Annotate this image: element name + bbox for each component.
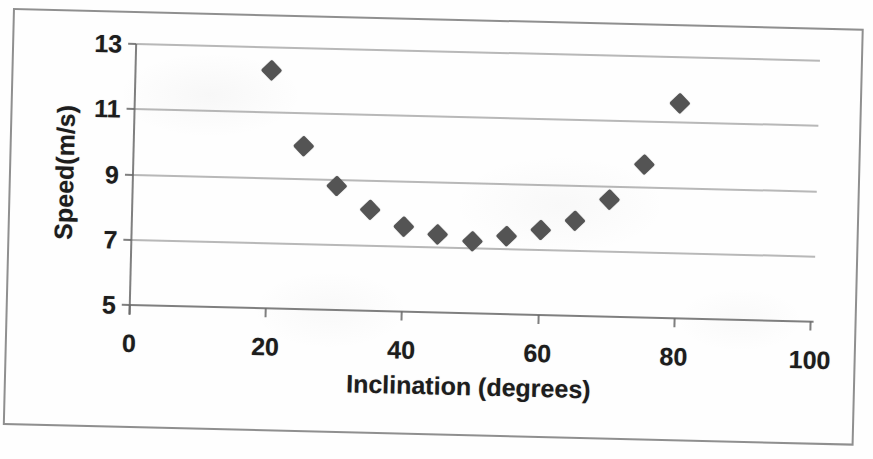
x-tick-label-40: 40: [356, 333, 447, 365]
x-axis-line: [130, 304, 814, 323]
x-tick-0: [129, 305, 131, 314]
x-tick-label-100: 100: [764, 343, 855, 375]
data-point-marker: [496, 225, 517, 246]
chart-frame: Speed(m/s) Inclination (degrees) 5791113…: [3, 8, 864, 446]
x-tick-20: [265, 308, 267, 317]
y-tick-label-9: 9: [49, 157, 120, 189]
data-point-marker: [360, 199, 381, 220]
data-point-marker: [599, 189, 620, 210]
data-point-marker: [427, 224, 448, 245]
y-tick-13: [128, 43, 136, 45]
y-axis-line: [129, 44, 138, 315]
y-tick-7: [123, 239, 131, 241]
x-tick-label-0: 0: [83, 327, 174, 359]
plot-area: [15, 10, 862, 31]
data-point-marker: [634, 154, 655, 175]
y-tick-label-13: 13: [52, 27, 123, 59]
data-point-marker: [530, 220, 551, 241]
data-point-marker: [564, 211, 585, 232]
x-tick-label-80: 80: [628, 340, 719, 372]
data-point-marker: [261, 60, 282, 81]
gridline-y-13: [136, 43, 820, 62]
data-point-marker: [293, 135, 314, 156]
y-tick-label-5: 5: [45, 288, 116, 320]
x-tick-80: [673, 318, 675, 327]
y-tick-label-7: 7: [47, 223, 118, 255]
x-tick-label-20: 20: [220, 330, 311, 362]
data-point-marker: [669, 92, 690, 113]
gridline-y-9: [133, 173, 817, 192]
data-point-marker: [394, 216, 415, 237]
x-tick-40: [401, 312, 403, 321]
gridline-y-11: [135, 108, 819, 127]
y-tick-9: [125, 173, 133, 175]
x-tick-label-60: 60: [492, 337, 583, 369]
y-tick-11: [127, 108, 135, 110]
x-tick-60: [537, 315, 539, 324]
x-tick-100: [809, 322, 811, 331]
scanned-chart-page: Speed(m/s) Inclination (degrees) 5791113…: [0, 0, 873, 459]
y-tick-label-11: 11: [50, 92, 121, 124]
